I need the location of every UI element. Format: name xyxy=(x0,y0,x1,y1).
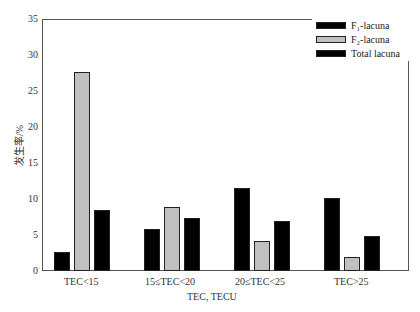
bar xyxy=(344,257,360,271)
y-tick: 5 xyxy=(33,229,38,240)
legend-f2: F₂-lacuna xyxy=(351,34,389,45)
y-axis-label: 发生率/% xyxy=(11,125,26,166)
bar xyxy=(184,218,200,271)
y-tick: 15 xyxy=(28,157,38,168)
bar xyxy=(254,241,270,271)
y-tick: 30 xyxy=(28,49,38,60)
bar xyxy=(94,210,110,271)
y-tick: 0 xyxy=(33,265,38,276)
x-tick: TEC<15 xyxy=(64,276,99,287)
x-tick: 15≤TEC<20 xyxy=(145,276,195,287)
legend-swatch-f2 xyxy=(316,36,346,43)
bar xyxy=(74,72,90,271)
x-axis-label: TEC, TECU xyxy=(187,291,237,302)
chart: 05101520253035 TEC<1515≤TEC<2020≤TEC<25T… xyxy=(0,0,420,312)
legend-swatch-total xyxy=(316,50,346,57)
bar xyxy=(324,198,340,271)
x-tick: 20≤TEC<25 xyxy=(235,276,285,287)
y-tick: 35 xyxy=(28,13,38,24)
y-tick: 10 xyxy=(28,193,38,204)
bar xyxy=(54,252,70,271)
bar xyxy=(234,188,250,271)
legend-total: Total lacuna xyxy=(351,48,400,59)
legend-swatch-f1 xyxy=(316,22,346,29)
bar xyxy=(274,221,290,271)
bar xyxy=(144,229,160,271)
y-tick: 25 xyxy=(28,85,38,96)
bar xyxy=(164,207,180,271)
y-tick: 20 xyxy=(28,121,38,132)
x-tick: TEC>25 xyxy=(334,276,369,287)
bar xyxy=(364,236,380,271)
legend-f1: F₁-lacuna xyxy=(351,20,389,31)
